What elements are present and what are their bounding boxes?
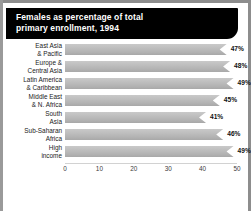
category-label-line-1: High: [49, 144, 62, 151]
category-label-line-2: & N. Africa: [6, 101, 62, 109]
x-axis-tick-label: 50: [233, 165, 240, 172]
bar-row: Sub-SaharanAfrica46%: [6, 127, 242, 144]
chart-title-line-1: Females as percentage of total: [16, 12, 143, 22]
bar-row: East Asia& Pacific47%: [6, 42, 242, 59]
bar-row: Middle East& N. Africa45%: [6, 93, 242, 110]
bar-value-label: 48%: [234, 62, 247, 69]
bar-row: Europe &Central Asia48%: [6, 59, 242, 76]
bar-value-label: 46%: [227, 130, 240, 137]
category-label: SouthAsia: [6, 110, 62, 125]
bar: [65, 146, 234, 157]
x-axis-tick-label: 0: [63, 165, 67, 172]
bar-value-label: 49%: [238, 147, 251, 154]
bar-value-label: 41%: [210, 113, 223, 120]
x-axis-tick-label: 30: [165, 165, 172, 172]
category-label: Sub-SaharanAfrica: [6, 127, 62, 142]
bar-value-label: 47%: [231, 45, 244, 52]
chart-title-line-2: primary enrollment, 1994: [16, 23, 216, 34]
category-label-line-2: & Pacific: [6, 50, 62, 58]
bar-row: SouthAsia41%: [6, 110, 242, 127]
category-label-line-1: Sub-Saharan: [24, 127, 62, 134]
bar: [65, 78, 234, 89]
bar: [65, 112, 206, 123]
category-label-line-2: Central Asia: [6, 67, 62, 75]
bar-track: 49%: [65, 78, 237, 89]
category-label: East Asia& Pacific: [6, 42, 62, 57]
chart-figure: Females as percentage of total primary e…: [0, 0, 251, 211]
plot-area: East Asia& Pacific47%Europe &Central Asi…: [6, 42, 242, 170]
x-axis-tick-label: 40: [199, 165, 206, 172]
category-label: Latin America& Caribbean: [6, 76, 62, 91]
category-label-line-1: East Asia: [35, 42, 62, 49]
category-label-line-2: Asia: [6, 118, 62, 126]
category-label-line-1: South: [45, 110, 62, 117]
category-label-line-2: Africa: [6, 135, 62, 143]
chart-title: Females as percentage of total primary e…: [16, 12, 216, 34]
category-label-line-2: & Caribbean: [6, 84, 62, 92]
frame-border-right: [248, 0, 251, 211]
bar-value-label: 49%: [238, 79, 251, 86]
bar-track: 48%: [65, 61, 237, 72]
bar-track: 46%: [65, 129, 237, 140]
x-axis-line: [65, 163, 237, 164]
bar: [65, 44, 227, 55]
x-axis: 01020304050: [65, 163, 237, 177]
bar-rows: East Asia& Pacific47%Europe &Central Asi…: [6, 42, 242, 161]
bar-track: 47%: [65, 44, 237, 55]
bar-track: 49%: [65, 146, 237, 157]
category-label: Europe &Central Asia: [6, 59, 62, 74]
bar: [65, 95, 220, 106]
bar: [65, 129, 223, 140]
bar-row: Highincome49%: [6, 144, 242, 161]
category-label: Highincome: [6, 144, 62, 159]
bar-value-label: 45%: [224, 96, 237, 103]
title-banner: Females as percentage of total primary e…: [6, 8, 238, 39]
bar-track: 45%: [65, 95, 237, 106]
category-label-line-2: income: [6, 152, 62, 160]
bar: [65, 61, 230, 72]
bar-track: 41%: [65, 112, 237, 123]
category-label-line-1: Latin America: [23, 76, 62, 83]
x-axis-tick-label: 20: [130, 165, 137, 172]
x-axis-tick-label: 10: [96, 165, 103, 172]
category-label-line-1: Europe &: [35, 59, 62, 66]
bar-row: Latin America& Caribbean49%: [6, 76, 242, 93]
category-label: Middle East& N. Africa: [6, 93, 62, 108]
category-label-line-1: Middle East: [29, 93, 62, 100]
